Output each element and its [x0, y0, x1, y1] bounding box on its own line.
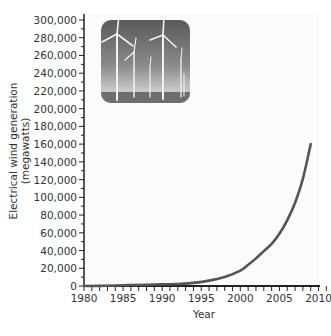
svg-text:Electrical wind generation: Electrical wind generation	[7, 83, 19, 220]
x-tick-label: 2005	[266, 292, 293, 304]
y-tick-label: 300,000	[34, 14, 77, 26]
y-tick-label: 100,000	[34, 191, 77, 203]
x-tick-label: 1985	[110, 292, 137, 304]
x-tick-label: 2010	[305, 292, 331, 304]
x-axis-tick-labels: 1980198519901995200020052010	[71, 292, 331, 304]
x-axis-title: Year	[192, 308, 216, 320]
x-tick-label: 1980	[71, 292, 98, 304]
y-tick-label: 220,000	[34, 85, 77, 97]
x-tick-label: 1990	[149, 292, 176, 304]
x-tick-label: 1995	[188, 292, 215, 304]
y-tick-label: 120,000	[34, 174, 77, 186]
wind-generation-chart: 020,00040,00060,00080,000100,000120,0001…	[0, 0, 331, 336]
y-axis-title: Electrical wind generation (megawatts)	[7, 83, 31, 220]
y-axis-tick-labels: 020,00040,00060,00080,000100,000120,0001…	[34, 14, 77, 292]
y-tick-label: 140,000	[34, 156, 77, 168]
y-tick-label: 80,000	[40, 209, 77, 221]
y-tick-label: 20,000	[40, 262, 77, 274]
y-tick-label: 0	[70, 280, 77, 292]
wind-turbines-photo	[101, 15, 190, 103]
x-axis	[84, 286, 326, 291]
y-tick-label: 40,000	[40, 245, 77, 257]
svg-text:(megawatts): (megawatts)	[19, 118, 31, 185]
y-tick-label: 240,000	[34, 67, 77, 79]
y-tick-label: 260,000	[34, 49, 77, 61]
y-tick-label: 180,000	[34, 120, 77, 132]
y-tick-label: 60,000	[40, 227, 77, 239]
y-tick-label: 280,000	[34, 32, 77, 44]
y-tick-label: 200,000	[34, 103, 77, 115]
x-tick-label: 2000	[227, 292, 254, 304]
y-tick-label: 160,000	[34, 138, 77, 150]
y-axis	[79, 14, 84, 287]
